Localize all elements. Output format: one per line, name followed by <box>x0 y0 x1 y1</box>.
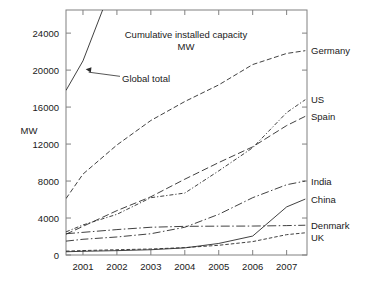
y-axis-title: MW <box>21 125 38 136</box>
series-line-us <box>66 100 305 232</box>
y-tick-labels: 04000800012000160002000024000 <box>33 28 59 261</box>
x-tick-labels: 2001200220032004200520062007 <box>72 261 297 272</box>
annotation-group: Global total <box>86 67 170 84</box>
x-tick-label: 2002 <box>106 261 127 272</box>
series-label-us: US <box>311 94 324 105</box>
chart-canvas: 04000800012000160002000024000 2001200220… <box>0 0 366 286</box>
x-tick-label: 2001 <box>72 261 93 272</box>
series-line-india <box>66 181 305 241</box>
annotation-global-total: Global total <box>122 73 170 84</box>
series-line-global-total <box>66 0 117 90</box>
y-tick-label: 8000 <box>38 176 59 187</box>
series-line-uk <box>66 233 305 251</box>
series-label-germany: Germany <box>311 45 350 56</box>
series-label-spain: Spain <box>311 111 335 122</box>
series-label-china: China <box>311 194 337 205</box>
y-tick-label: 24000 <box>33 28 59 39</box>
series-label-india: India <box>311 176 332 187</box>
chart-title-line1: Cumulative installed capacity <box>125 29 248 40</box>
wind-capacity-chart-figure: 04000800012000160002000024000 2001200220… <box>0 0 366 286</box>
series-label-denmark: Denmark <box>311 220 350 231</box>
y-tick-label: 4000 <box>38 213 59 224</box>
x-tick-label: 2003 <box>140 261 161 272</box>
y-tick-label: 0 <box>54 250 59 261</box>
y-tick-label: 20000 <box>33 65 59 76</box>
series-line-germany <box>66 51 305 199</box>
y-tick-label: 16000 <box>33 102 59 113</box>
x-tick-label: 2005 <box>208 261 229 272</box>
y-tick-label: 12000 <box>33 139 59 150</box>
chart-title-line2: MW <box>178 41 195 52</box>
annotation-arrowhead <box>86 67 92 72</box>
series-labels: GermanyUSSpainIndiaChinaDenmarkUK <box>311 45 350 243</box>
series-line-spain <box>66 116 305 234</box>
series-label-uk: UK <box>311 232 325 243</box>
x-tick-label: 2007 <box>276 261 297 272</box>
x-tick-label: 2004 <box>174 261 195 272</box>
x-tick-label: 2006 <box>242 261 263 272</box>
